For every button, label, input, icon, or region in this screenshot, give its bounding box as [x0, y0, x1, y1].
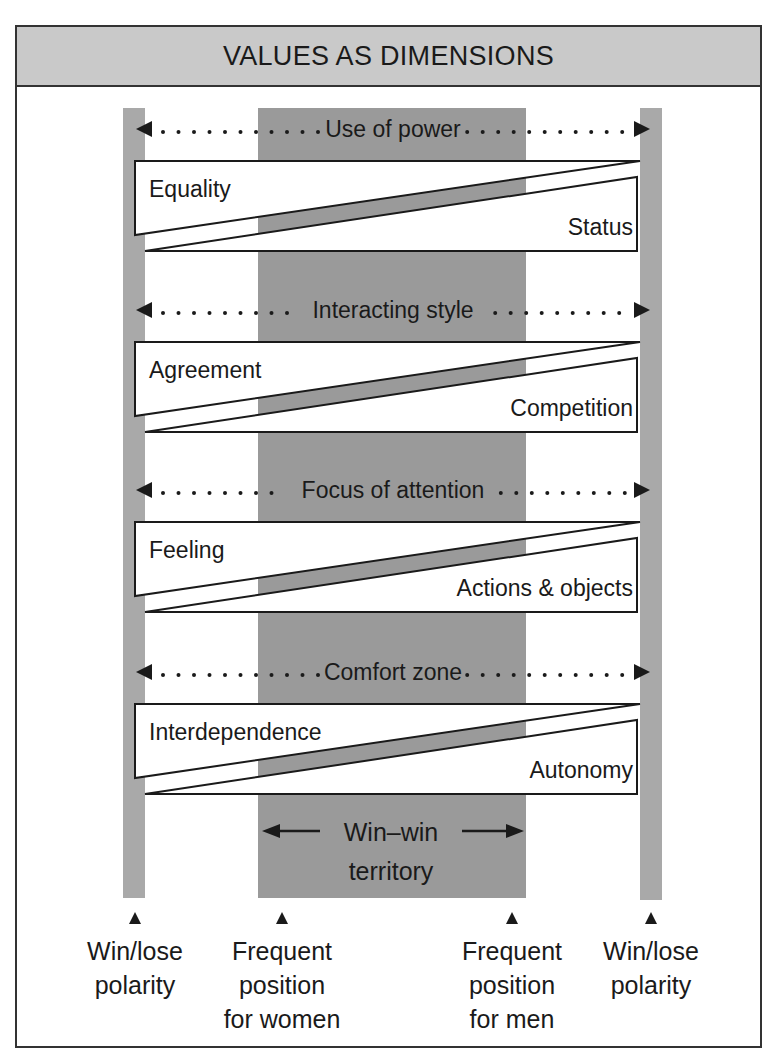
position-label-line1: Frequent	[232, 937, 332, 965]
position-label-line2: position	[469, 971, 555, 999]
up-triangle-icon	[129, 912, 141, 924]
position-label-2: Frequentpositionfor women	[224, 912, 341, 1033]
dimension-name: Comfort zone	[324, 659, 462, 685]
dimension-name: Use of power	[325, 116, 461, 142]
win-win-line2: territory	[349, 857, 434, 885]
right-value-label: Actions & objects	[457, 575, 633, 601]
dimension-2: Interacting styleAgreementCompetition	[135, 297, 650, 432]
position-label-4: Win/losepolarity	[603, 912, 699, 999]
position-label-line2: polarity	[95, 971, 176, 999]
left-value-label: Interdependence	[149, 719, 322, 745]
position-label-line1: Win/lose	[603, 937, 699, 965]
left-value-label: Feeling	[149, 537, 224, 563]
position-label-line3: for men	[470, 1005, 555, 1033]
win-win-line1: Win–win	[344, 818, 438, 846]
position-label-line2: position	[239, 971, 325, 999]
position-label-line1: Frequent	[462, 937, 562, 965]
up-triangle-icon	[506, 912, 518, 924]
left-value-label: Agreement	[149, 357, 262, 383]
right-polarity-bar	[640, 108, 662, 900]
dimension-4: Comfort zoneInterdependenceAutonomy	[135, 659, 650, 794]
dimension-3: Focus of attentionFeelingActions & objec…	[135, 477, 650, 612]
dimension-name: Interacting style	[312, 297, 473, 323]
up-triangle-icon	[645, 912, 657, 924]
dimension-name: Focus of attention	[302, 477, 485, 503]
right-value-label: Status	[568, 214, 633, 240]
right-value-label: Autonomy	[529, 757, 633, 783]
up-triangle-icon	[276, 912, 288, 924]
dimension-1: Use of powerEqualityStatus	[135, 116, 650, 251]
position-label-line1: Win/lose	[87, 937, 183, 965]
position-label-line3: for women	[224, 1005, 341, 1033]
position-label-line2: polarity	[611, 971, 692, 999]
right-value-label: Competition	[510, 395, 633, 421]
diagram-canvas: Use of powerEqualityStatusInteracting st…	[0, 0, 779, 1061]
position-label-1: Win/losepolarity	[87, 912, 183, 999]
position-label-3: Frequentpositionfor men	[462, 912, 562, 1033]
left-value-label: Equality	[149, 176, 231, 202]
